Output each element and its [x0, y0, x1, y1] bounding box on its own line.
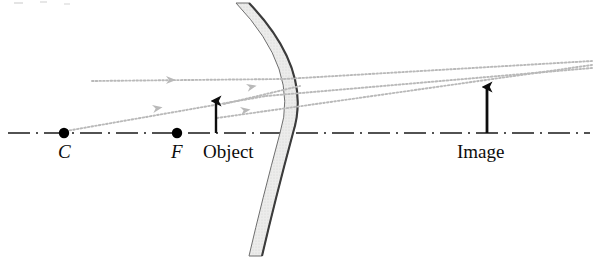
point-C-marker	[59, 128, 69, 138]
convex-mirror	[236, 3, 298, 256]
ray-parallel-reflected	[284, 61, 592, 79]
scan-artifact	[14, 2, 23, 4]
label-center-of-curvature: C	[58, 142, 71, 161]
scan-artifact	[64, 3, 70, 5]
ray-direction-arrowheads	[152, 76, 258, 115]
label-focal-point: F	[171, 142, 183, 161]
light-rays	[66, 61, 592, 131]
label-image: Image	[457, 142, 504, 161]
ray-diagram-canvas	[0, 0, 595, 257]
point-F-marker	[172, 128, 182, 138]
label-object: Object	[203, 142, 254, 161]
optics-diagram-figure: C F Object Image	[0, 0, 595, 257]
ray-parallel-incident	[92, 79, 284, 81]
scan-artifact	[40, 1, 47, 3]
ray-object-to-image	[217, 65, 592, 118]
